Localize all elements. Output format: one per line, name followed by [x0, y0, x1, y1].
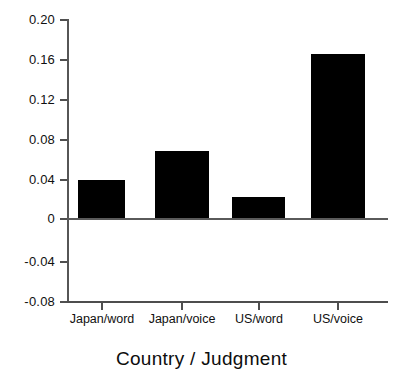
bar-chart: 0.20 0.16 0.12 0.08 0.04 0 -0.04 -0.08 J…	[0, 0, 403, 374]
y-axis-label-012: 0.12	[29, 93, 55, 106]
y-tick-mark	[60, 139, 67, 141]
x-axis-line	[67, 301, 388, 303]
x-axis-label-japan-word: Japan/word	[70, 313, 135, 326]
x-tick-mark	[337, 303, 339, 310]
y-tick-mark	[60, 179, 67, 181]
bar-japan-voice	[155, 151, 209, 218]
y-axis-label-neg004: -0.04	[24, 255, 55, 268]
y-tick-mark	[60, 261, 67, 263]
y-axis-label-0: 0	[48, 212, 55, 225]
y-axis-line	[67, 19, 69, 303]
y-axis-label-neg008: -0.08	[24, 295, 55, 308]
x-axis-label-us-voice: US/voice	[313, 313, 363, 326]
y-tick-mark	[60, 99, 67, 101]
y-tick-mark	[60, 19, 67, 21]
y-axis-label-020: 0.20	[29, 13, 55, 26]
y-axis-label-016: 0.16	[29, 53, 55, 66]
y-tick-mark	[60, 301, 67, 303]
x-tick-mark	[101, 303, 103, 310]
y-axis-label-004: 0.04	[29, 173, 55, 186]
zero-baseline	[67, 218, 388, 220]
y-axis-label-008: 0.08	[29, 133, 55, 146]
bar-us-word	[232, 197, 285, 218]
x-axis-label-japan-voice: Japan/voice	[149, 313, 216, 326]
x-axis-title: Country / Judgment	[0, 348, 403, 370]
x-tick-mark	[258, 303, 260, 310]
bar-us-voice	[311, 54, 365, 218]
y-tick-mark	[60, 59, 67, 61]
x-axis-label-us-word: US/word	[235, 313, 283, 326]
x-tick-mark	[181, 303, 183, 310]
y-tick-mark	[60, 218, 67, 220]
bar-japan-word	[78, 180, 125, 218]
